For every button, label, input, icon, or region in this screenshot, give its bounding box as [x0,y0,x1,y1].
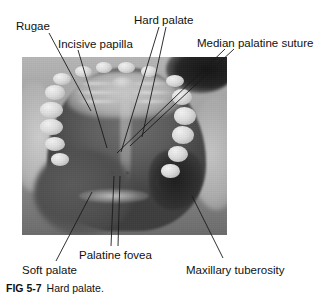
label-palatine-fovea: Palatine fovea [79,250,152,262]
palate-photograph [22,57,227,235]
figure-caption-text: Hard palate. [47,282,104,294]
label-maxillary-tuberosity: Maxillary tuberosity [186,265,284,277]
figure-caption: FIG 5-7Hard palate. [6,283,104,294]
figure-hard-palate: Rugae Incisive papilla Hard palate Media… [0,0,324,302]
label-rugae: Rugae [16,21,50,33]
figure-number: FIG 5-7 [6,282,42,294]
label-soft-palate: Soft palate [22,265,77,277]
label-median-palatine-suture: Median palatine suture [197,38,313,50]
label-incisive-papilla: Incisive papilla [58,39,133,51]
photo-film-grain [22,57,227,235]
label-hard-palate: Hard palate [134,15,193,27]
